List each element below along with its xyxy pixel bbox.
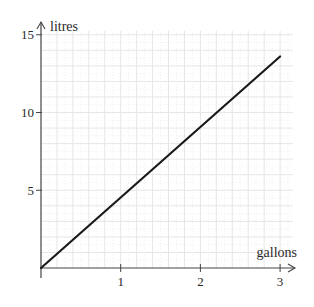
- x-tick-label: 3: [277, 274, 284, 289]
- y-axis-label: litres: [50, 19, 78, 34]
- data-line: [41, 57, 280, 268]
- x-axis-label: gallons: [257, 245, 297, 260]
- conversion-chart: 12351015 gallons litres: [0, 0, 314, 307]
- chart-canvas: 12351015 gallons litres: [0, 0, 314, 307]
- grid: [41, 31, 293, 268]
- y-tick-label: 15: [21, 27, 34, 42]
- x-tick-label: 2: [197, 274, 204, 289]
- data-series: [41, 57, 280, 268]
- y-tick-label: 10: [21, 105, 34, 120]
- y-tick-label: 5: [28, 183, 35, 198]
- x-tick-label: 1: [117, 274, 124, 289]
